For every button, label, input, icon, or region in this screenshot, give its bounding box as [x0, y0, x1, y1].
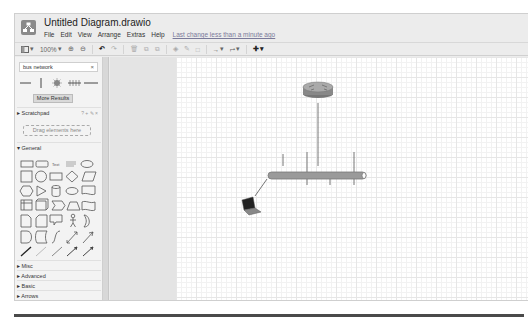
- menu-edit[interactable]: Edit: [60, 31, 71, 38]
- section-basic[interactable]: ▸ Basic: [17, 280, 101, 290]
- trapezoid-shape[interactable]: [67, 202, 80, 210]
- shadow-button[interactable]: □: [196, 46, 200, 53]
- result-hub-shape[interactable]: [52, 78, 62, 88]
- to-back-icon: ⧉: [155, 45, 160, 53]
- format-panel-button[interactable]: ▾: [21, 45, 34, 53]
- rounded-rectangle-shape[interactable]: [36, 161, 48, 167]
- diagram-canvas[interactable]: [176, 57, 528, 301]
- section-misc[interactable]: ▸ Misc: [17, 260, 101, 270]
- text-shape[interactable]: Text: [52, 162, 60, 167]
- more-results-button[interactable]: More Results: [33, 94, 73, 103]
- or-shape[interactable]: [84, 215, 89, 227]
- document-title[interactable]: Untitled Diagram.drawio: [44, 17, 151, 28]
- laptop-link[interactable]: [255, 179, 267, 196]
- diamond-shape[interactable]: [66, 171, 78, 182]
- to-front-button[interactable]: ⧉: [144, 45, 149, 53]
- triangle-shape[interactable]: [37, 186, 46, 196]
- redo-icon: ↷: [111, 45, 117, 53]
- directional-connector-shape[interactable]: [67, 247, 77, 256]
- card-shape[interactable]: [36, 215, 47, 227]
- process-shape[interactable]: [50, 173, 62, 180]
- drawio-window: Untitled Diagram.drawio File Edit View A…: [14, 13, 528, 301]
- ellipse-shape[interactable]: [81, 161, 93, 168]
- sidebar-scrollbar[interactable]: [103, 57, 109, 301]
- callout-shape[interactable]: [50, 215, 62, 225]
- textbox-shape[interactable]: [66, 162, 76, 166]
- zoom-out-icon: ⊖: [80, 45, 86, 53]
- thick-line-shape[interactable]: [21, 247, 31, 256]
- insert-button[interactable]: ✚▾: [253, 45, 264, 53]
- delay-shape[interactable]: [21, 231, 32, 243]
- undo-button[interactable]: ↶: [99, 45, 105, 53]
- search-results: [19, 77, 99, 89]
- connector-arrow-shape[interactable]: [83, 247, 93, 256]
- hexagon-shape[interactable]: [20, 186, 33, 196]
- note-shape[interactable]: [21, 215, 31, 227]
- circle-shape[interactable]: [36, 171, 47, 182]
- step-shape[interactable]: [52, 201, 65, 210]
- redo-button[interactable]: ↷: [111, 45, 117, 53]
- dashed-line-shape[interactable]: [36, 247, 46, 256]
- taskbar-strip: [14, 314, 524, 317]
- zoom-in-button[interactable]: ⊕: [68, 45, 74, 53]
- router-node[interactable]: [303, 82, 333, 98]
- divider: [92, 45, 93, 54]
- general-shapes-palette: Text: [19, 157, 99, 257]
- curve-shape[interactable]: [52, 231, 60, 243]
- title-bar: Untitled Diagram.drawio File Edit View A…: [15, 14, 528, 41]
- menu-arrange[interactable]: Arrange: [98, 31, 121, 38]
- bidirectional-arrow-shape[interactable]: [67, 232, 77, 243]
- shape-search-input[interactable]: bus network ×: [19, 62, 98, 72]
- cloud-ellipse-shape[interactable]: [66, 188, 78, 195]
- menu-file[interactable]: File: [44, 31, 54, 38]
- section-general[interactable]: ▾ General: [17, 142, 101, 152]
- divider: [166, 45, 167, 54]
- last-change-link[interactable]: Last change less than a minute ago: [173, 31, 276, 38]
- section-arrows[interactable]: ▸ Arrows: [17, 290, 101, 300]
- divider: [246, 45, 247, 54]
- result-bus-shape[interactable]: [68, 80, 81, 86]
- waypoints-button[interactable]: ⮣▾: [230, 45, 240, 53]
- menu-bar: File Edit View Arrange Extras Help Last …: [44, 31, 275, 38]
- panel-toggle-icon: [21, 46, 29, 53]
- cube-shape[interactable]: [36, 199, 48, 210]
- rectangle-shape[interactable]: [21, 161, 33, 167]
- divider: [206, 45, 207, 54]
- to-front-icon: ⧉: [144, 45, 149, 53]
- internal-storage-shape[interactable]: [21, 200, 32, 210]
- line-color-button[interactable]: ✎: [184, 45, 190, 53]
- menu-help[interactable]: Help: [151, 31, 164, 38]
- actor-shape[interactable]: [70, 214, 76, 227]
- connection-arrow-icon: →: [213, 46, 220, 53]
- to-back-button[interactable]: ⧉: [155, 45, 160, 53]
- bus-cable-node[interactable]: [268, 172, 366, 179]
- cylinder-shape[interactable]: [52, 186, 60, 197]
- delete-button[interactable]: 🗑: [130, 45, 138, 53]
- scratchpad-tools[interactable]: ? + ✎ ×: [81, 108, 98, 118]
- pencil-icon: ✎: [184, 45, 190, 53]
- menu-extras[interactable]: Extras: [127, 31, 145, 38]
- tape-shape[interactable]: [82, 201, 95, 210]
- trash-icon: 🗑: [130, 45, 138, 53]
- line-shape[interactable]: [52, 247, 62, 256]
- fill-color-button[interactable]: ◈: [173, 45, 178, 53]
- scratchpad-dropzone[interactable]: Drag elements here: [23, 125, 91, 136]
- arrow-shape[interactable]: [83, 232, 93, 243]
- divider: [123, 45, 124, 54]
- shadow-icon: □: [196, 46, 200, 53]
- scratchpad-header[interactable]: ▸ Scratchpad ? + ✎ ×: [17, 107, 101, 117]
- data-storage-shape[interactable]: [36, 231, 48, 243]
- square-shape[interactable]: [21, 171, 32, 182]
- waypoint-icon: ⮣: [230, 45, 235, 53]
- clear-search-icon[interactable]: ×: [90, 63, 94, 71]
- document-shape[interactable]: [82, 186, 95, 195]
- zoom-out-button[interactable]: ⊖: [80, 45, 86, 53]
- section-advanced[interactable]: ▸ Advanced: [17, 270, 101, 280]
- connection-button[interactable]: →▾: [213, 45, 225, 53]
- toolbar: ▾ 100%▾ ⊕ ⊖ ↶ ↷ 🗑 ⧉ ⧉ ◈ ✎ □ →▾ ⮣▾ ✚▾: [15, 42, 528, 56]
- zoom-select[interactable]: 100%▾: [40, 45, 62, 53]
- menu-view[interactable]: View: [78, 31, 92, 38]
- laptop-node[interactable]: [242, 197, 261, 215]
- diagram-layer: [176, 57, 528, 301]
- parallelogram-shape[interactable]: [82, 172, 96, 181]
